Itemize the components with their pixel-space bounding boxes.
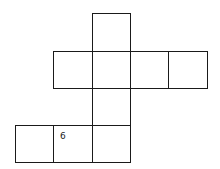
net-face-top <box>92 13 131 52</box>
net-face-row2-d <box>168 51 208 89</box>
net-face-row2-c <box>130 51 169 89</box>
net-face-row2-a <box>53 51 93 89</box>
net-face-row2-b <box>92 51 131 89</box>
net-face-row4-b: 6 <box>53 125 93 163</box>
net-face-row4-c <box>92 125 131 163</box>
net-face-row4-a <box>15 125 54 163</box>
net-face-row3 <box>92 88 131 126</box>
face-label: 6 <box>60 131 66 141</box>
